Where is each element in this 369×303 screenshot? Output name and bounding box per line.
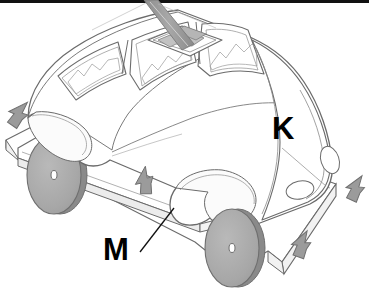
arrow-front-right bbox=[342, 172, 368, 203]
windshield bbox=[198, 23, 264, 76]
label-k: K bbox=[272, 111, 295, 146]
car-diagram-svg: K M bbox=[0, 0, 369, 303]
figure-root: K M bbox=[0, 0, 369, 303]
label-m: M bbox=[103, 232, 129, 267]
wheel-front bbox=[205, 209, 265, 287]
